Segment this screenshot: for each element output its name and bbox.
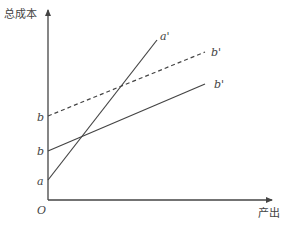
y-axis-label: 总成本 — [4, 7, 37, 21]
tick-label-b-high: b — [37, 111, 44, 124]
line-a-a-prime — [48, 40, 157, 180]
end-label-b-prime-solid: b' — [214, 78, 224, 91]
origin-label: O — [37, 204, 46, 217]
x-axis-label: 产出 — [258, 206, 280, 220]
line-b-b-prime-dashed — [48, 52, 205, 116]
end-label-b-prime-dashed: b' — [211, 46, 221, 59]
cost-chart: 总成本 产出 O a b b a' b' b' — [0, 0, 295, 227]
tick-label-a: a — [37, 175, 44, 188]
end-label-a-prime: a' — [160, 30, 170, 43]
line-b-b-prime-solid — [48, 84, 205, 151]
tick-label-b-low: b — [37, 145, 44, 158]
